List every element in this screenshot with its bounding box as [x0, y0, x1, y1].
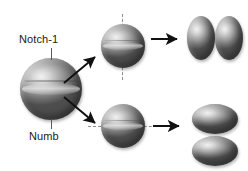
arrow-up-right-icon — [62, 52, 102, 86]
arrow-right-icon — [152, 119, 186, 133]
daughter-cell-right — [215, 16, 243, 60]
daughter-cell-top — [192, 104, 238, 134]
cell-division-figure: Notch-1 Numb — [0, 0, 248, 172]
numb-leader-line — [51, 119, 52, 129]
dividing-cell-horizontal-axis — [101, 104, 145, 148]
arrow-right-icon — [150, 32, 184, 46]
bottom-divider — [0, 171, 248, 172]
numb-label: Numb — [29, 130, 59, 142]
dividing-cell-vertical-axis — [101, 24, 145, 68]
daughter-cell-bottom — [192, 136, 238, 166]
arrow-down-right-icon — [62, 94, 102, 128]
daughter-cell-left — [187, 16, 215, 60]
notch-leader-line — [51, 48, 52, 60]
notch-label: Notch-1 — [19, 33, 58, 45]
